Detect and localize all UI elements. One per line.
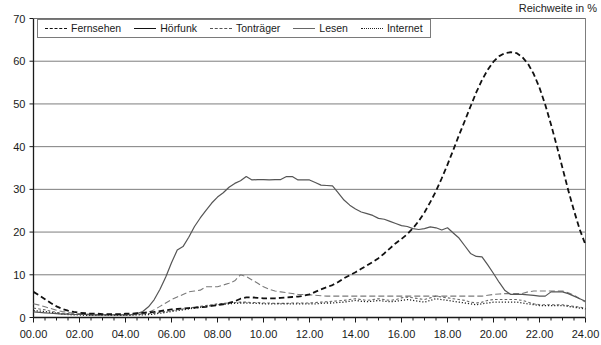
xtick-label-00.00: 00.00 (20, 328, 48, 340)
legend-item-fernsehen: Fernsehen (45, 23, 121, 34)
xtick-label-06.00: 06.00 (158, 328, 186, 340)
plot-area: 01020304050607000.0002.0004.0006.0008.00… (0, 0, 601, 345)
xtick-label-20.00: 20.00 (480, 328, 508, 340)
series-line-tontraeger (34, 296, 586, 315)
legend-label-tontraeger: Tonträger (236, 23, 280, 34)
ytick-label-60: 60 (13, 55, 25, 67)
chart-legend: FernsehenHörfunkTonträgerLesenInternet (37, 19, 431, 38)
xtick-label-12.00: 12.00 (296, 328, 324, 340)
chart-page: Reichweite in % 01020304050607000.0002.0… (0, 0, 601, 345)
ytick-label-20: 20 (13, 226, 25, 238)
legend-swatch-fernsehen (45, 24, 67, 33)
xtick-label-22.00: 22.00 (526, 328, 554, 340)
legend-label-fernsehen: Fernsehen (71, 23, 121, 34)
legend-item-lesen: Lesen (293, 23, 348, 34)
chart-svg: 01020304050607000.0002.0004.0006.0008.00… (0, 0, 601, 345)
xtick-label-08.00: 08.00 (204, 328, 232, 340)
xtick-label-24.00: 24.00 (572, 328, 600, 340)
ytick-label-40: 40 (13, 141, 25, 153)
series-line-internet (34, 299, 586, 316)
legend-item-tontraeger: Tonträger (210, 23, 280, 34)
xtick-label-14.00: 14.00 (342, 328, 370, 340)
legend-swatch-internet (361, 24, 383, 33)
legend-item-hoerfunk: Hörfunk (134, 23, 197, 34)
legend-label-hoerfunk: Hörfunk (160, 23, 197, 34)
ytick-label-70: 70 (13, 13, 25, 25)
legend-item-internet: Internet (361, 23, 423, 34)
xtick-label-18.00: 18.00 (434, 328, 462, 340)
xtick-label-04.00: 04.00 (112, 328, 140, 340)
xtick-label-10.00: 10.00 (250, 328, 278, 340)
legend-label-lesen: Lesen (319, 23, 348, 34)
ytick-label-0: 0 (19, 312, 25, 324)
legend-swatch-hoerfunk (134, 24, 156, 33)
xtick-label-02.00: 02.00 (66, 328, 94, 340)
ytick-label-10: 10 (13, 269, 25, 281)
xtick-label-16.00: 16.00 (388, 328, 416, 340)
legend-swatch-lesen (293, 24, 315, 33)
ytick-label-30: 30 (13, 183, 25, 195)
legend-swatch-tontraeger (210, 24, 232, 33)
legend-label-internet: Internet (387, 23, 423, 34)
ytick-label-50: 50 (13, 98, 25, 110)
